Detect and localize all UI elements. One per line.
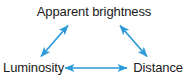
concept-diagram: Apparent brightness Luminosity Distance bbox=[0, 0, 188, 81]
edge-luminosity-apparent-brightness bbox=[41, 26, 68, 57]
diagram-edges bbox=[0, 0, 188, 81]
edge-apparent-brightness-distance bbox=[120, 26, 147, 57]
